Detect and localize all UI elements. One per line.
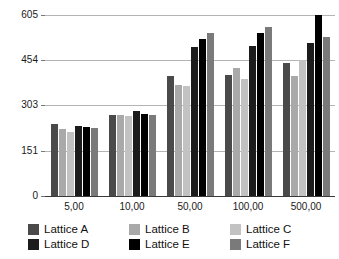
- bar[interactable]: [91, 128, 98, 196]
- bar[interactable]: [233, 68, 240, 196]
- bar-group: [277, 15, 335, 196]
- legend-item-label: Lattice A: [44, 223, 88, 236]
- x-axis-labels: 5,0010,0050,00100,00500,00: [45, 200, 335, 214]
- legend-item-label: Lattice C: [246, 223, 291, 236]
- bar[interactable]: [323, 37, 330, 196]
- x-axis-tick-label: 5,00: [45, 200, 103, 214]
- legend-item-label: Lattice D: [44, 238, 89, 251]
- legend-item[interactable]: Lattice E: [129, 238, 230, 251]
- bar-chart: 0151303454605 5,0010,0050,00100,00500,00…: [0, 0, 339, 259]
- legend-item[interactable]: Lattice F: [230, 238, 331, 251]
- y-axis-tick-label: 0: [4, 191, 38, 201]
- bar[interactable]: [207, 33, 214, 196]
- bar[interactable]: [149, 115, 156, 196]
- legend-swatch-icon: [28, 224, 39, 235]
- legend-swatch-icon: [129, 239, 140, 250]
- bar-group: [103, 15, 161, 196]
- y-axis-tick-mark: [41, 105, 45, 106]
- y-axis-tick-label: 151: [4, 146, 38, 156]
- bar[interactable]: [83, 127, 90, 196]
- bar[interactable]: [183, 86, 190, 196]
- y-axis-tick-label: 605: [4, 10, 38, 20]
- chart-legend: Lattice ALattice BLattice CLattice DLatt…: [28, 222, 328, 252]
- bar[interactable]: [291, 76, 298, 196]
- bar[interactable]: [125, 116, 132, 196]
- bar[interactable]: [307, 43, 314, 196]
- bar[interactable]: [67, 132, 74, 196]
- bar[interactable]: [109, 115, 116, 196]
- bar[interactable]: [133, 111, 140, 196]
- bar-group: [45, 15, 103, 196]
- bar[interactable]: [51, 124, 58, 196]
- y-axis-tick-mark: [41, 196, 45, 197]
- bar[interactable]: [315, 15, 322, 196]
- legend-swatch-icon: [230, 224, 241, 235]
- y-axis: 0151303454605: [0, 0, 38, 259]
- bar[interactable]: [191, 47, 198, 196]
- legend-item[interactable]: Lattice D: [28, 238, 129, 251]
- bar-group: [219, 15, 277, 196]
- bar[interactable]: [249, 46, 256, 196]
- x-axis-tick-label: 10,00: [103, 200, 161, 214]
- legend-item-label: Lattice B: [145, 223, 190, 236]
- bar[interactable]: [167, 76, 174, 196]
- x-axis-tick-label: 100,00: [219, 200, 277, 214]
- legend-item-label: Lattice E: [145, 238, 190, 251]
- bar[interactable]: [175, 85, 182, 196]
- legend-swatch-icon: [230, 239, 241, 250]
- bar-groups: [45, 15, 335, 196]
- bar[interactable]: [199, 39, 206, 196]
- legend-item[interactable]: Lattice B: [129, 223, 230, 236]
- legend-swatch-icon: [28, 239, 39, 250]
- bar[interactable]: [75, 126, 82, 196]
- legend-item-label: Lattice F: [246, 238, 290, 251]
- bar[interactable]: [265, 27, 272, 196]
- bar[interactable]: [299, 60, 306, 196]
- bar[interactable]: [117, 115, 124, 196]
- legend-item[interactable]: Lattice A: [28, 223, 129, 236]
- y-axis-tick-label: 454: [4, 55, 38, 65]
- bar[interactable]: [141, 114, 148, 196]
- legend-item[interactable]: Lattice C: [230, 223, 331, 236]
- bar[interactable]: [241, 79, 248, 196]
- x-axis-line: [45, 196, 335, 197]
- x-axis-tick-label: 500,00: [277, 200, 335, 214]
- y-axis-tick-mark: [41, 15, 45, 16]
- y-axis-tick-mark: [41, 60, 45, 61]
- bar[interactable]: [225, 75, 232, 196]
- bar[interactable]: [283, 63, 290, 196]
- bar[interactable]: [257, 33, 264, 196]
- x-axis-tick-label: 50,00: [161, 200, 219, 214]
- legend-swatch-icon: [129, 224, 140, 235]
- bar-group: [161, 15, 219, 196]
- bar[interactable]: [59, 129, 66, 196]
- chart-title: [40, 0, 240, 4]
- y-axis-tick-mark: [41, 151, 45, 152]
- y-axis-tick-label: 303: [4, 100, 38, 110]
